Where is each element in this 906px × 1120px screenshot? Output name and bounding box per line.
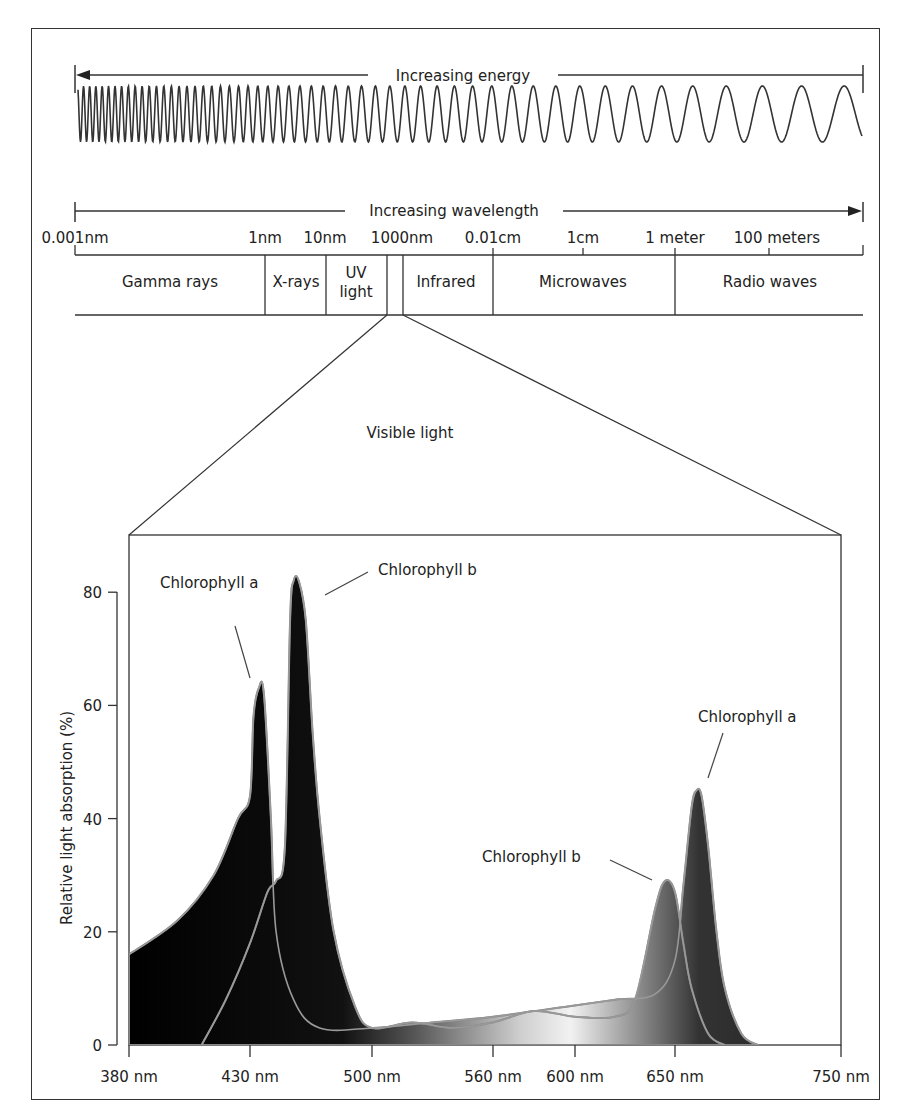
absorption-chart: 020406080 380 nm430 nm500 nm560 nm600 nm… — [58, 535, 870, 1086]
band-x-rays: X-rays — [273, 273, 320, 291]
y-ticks: 020406080 — [83, 584, 117, 1055]
y-tick-label: 20 — [83, 924, 102, 942]
annotation-chlorophyll-b-red: Chlorophyll b — [482, 848, 581, 866]
y-tick-label: 0 — [92, 1037, 102, 1055]
x-tick-label: 380 nm — [100, 1068, 158, 1086]
wave-graphic — [78, 86, 862, 142]
scale-label: 1cm — [567, 229, 599, 247]
band-uv-line1: UV — [345, 264, 367, 282]
x-tick-label: 600 nm — [546, 1068, 604, 1086]
arrow-right-icon — [848, 206, 862, 216]
y-tick-label: 80 — [83, 584, 102, 602]
annotation-chlorophyll-a-red: Chlorophyll a — [698, 708, 797, 726]
visible-light-label: Visible light — [366, 424, 453, 442]
band-uv-line2: light — [339, 283, 372, 301]
band-microwaves: Microwaves — [539, 273, 627, 291]
wavelength-scale: 0.001nm1nm10nm1000nm0.01cm1cm1 meter100 … — [41, 229, 820, 247]
x-tick-label: 560 nm — [464, 1068, 522, 1086]
y-axis-label: Relative light absorption (%) — [58, 711, 76, 925]
y-tick-label: 60 — [83, 697, 102, 715]
x-tick-label: 500 nm — [343, 1068, 401, 1086]
x-ticks: 380 nm430 nm500 nm560 nm600 nm650 nm750 … — [100, 1045, 870, 1086]
wavelength-arrow: Increasing wavelength — [75, 202, 863, 222]
scale-label: 1000nm — [371, 229, 433, 247]
visible-zoom-lines — [129, 315, 841, 535]
wavelength-label: Increasing wavelength — [369, 202, 539, 220]
chlorophyll-b-area — [202, 576, 725, 1045]
scale-label: 0.01cm — [465, 229, 521, 247]
arrow-left-icon — [76, 70, 90, 80]
x-tick-label: 430 nm — [221, 1068, 279, 1086]
y-tick-label: 40 — [83, 811, 102, 829]
scale-label: 100 meters — [734, 229, 821, 247]
annotation-chlorophyll-a-blue: Chlorophyll a — [160, 574, 259, 592]
energy-arrow: Increasing energy — [75, 65, 863, 93]
scale-label: 0.001nm — [41, 229, 108, 247]
scale-label: 10nm — [303, 229, 346, 247]
figure-canvas: Increasing energy Increasing wavelength … — [0, 0, 906, 1120]
band-infrared: Infrared — [416, 273, 475, 291]
scale-label: 1 meter — [645, 229, 705, 247]
scale-label: 1nm — [248, 229, 282, 247]
x-tick-label: 650 nm — [646, 1068, 704, 1086]
energy-label: Increasing energy — [396, 67, 531, 85]
x-tick-label: 750 nm — [812, 1068, 870, 1086]
band-radio-waves: Radio waves — [723, 273, 817, 291]
annotation-chlorophyll-b-blue: Chlorophyll b — [378, 561, 477, 579]
band-gamma-rays: Gamma rays — [122, 273, 218, 291]
